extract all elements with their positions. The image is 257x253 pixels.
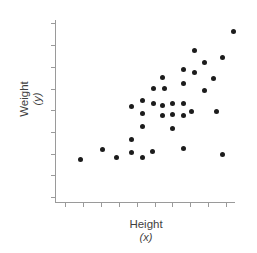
x-axis-label-block: Height (x) (129, 218, 162, 244)
data-point (160, 113, 165, 118)
data-point (160, 75, 165, 80)
data-point (181, 67, 186, 72)
y-axis-tick (51, 23, 55, 24)
data-point (140, 111, 145, 116)
y-axis-line (55, 20, 56, 202)
data-point (129, 104, 134, 109)
data-point (181, 113, 186, 118)
data-point (140, 124, 145, 129)
x-axis-tick (101, 203, 102, 207)
y-axis-sub-label: (y) (31, 81, 44, 117)
data-point (231, 29, 236, 34)
data-point (202, 88, 207, 93)
data-point (214, 109, 219, 114)
data-point (181, 101, 186, 106)
y-axis-tick (51, 132, 55, 133)
data-point (192, 48, 197, 53)
data-point (220, 55, 225, 60)
x-axis-tick (65, 203, 66, 207)
y-axis-tick (51, 89, 55, 90)
y-axis-tick (51, 110, 55, 111)
data-point (151, 86, 156, 91)
data-point (160, 103, 165, 108)
data-point (78, 157, 83, 162)
x-axis-sub-label: (x) (129, 231, 162, 244)
x-axis-tick (155, 203, 156, 207)
data-point (192, 70, 197, 75)
x-axis-tick (190, 203, 191, 207)
data-point (100, 147, 105, 152)
x-axis-tick (172, 203, 173, 207)
y-axis-tick (51, 45, 55, 46)
y-axis-label: Weight (18, 81, 31, 117)
data-point (151, 101, 156, 106)
data-point (170, 112, 175, 117)
data-point (170, 126, 175, 131)
data-point (189, 109, 194, 114)
x-axis-tick (83, 203, 84, 207)
x-axis-label: Height (129, 218, 162, 231)
data-point (181, 146, 186, 151)
data-point (150, 149, 155, 154)
x-axis-tick (208, 203, 209, 207)
x-axis-tick (226, 203, 227, 207)
scatter-plot-figure: Weight (y) Height (x) (0, 0, 257, 253)
x-axis-tick (119, 203, 120, 207)
data-point (140, 98, 145, 103)
data-point (181, 81, 186, 86)
data-point (170, 101, 175, 106)
y-axis-label-block: Weight (y) (18, 81, 44, 117)
data-point (162, 86, 167, 91)
data-point (129, 137, 134, 142)
data-point (129, 150, 134, 155)
y-axis-tick (51, 175, 55, 176)
y-axis-tick (51, 67, 55, 68)
data-point (114, 155, 119, 160)
data-point (140, 155, 145, 160)
data-point (220, 152, 225, 157)
x-axis-tick (137, 203, 138, 207)
y-axis-tick (51, 154, 55, 155)
data-point (202, 60, 207, 65)
y-axis-tick (51, 197, 55, 198)
data-point (211, 76, 216, 81)
